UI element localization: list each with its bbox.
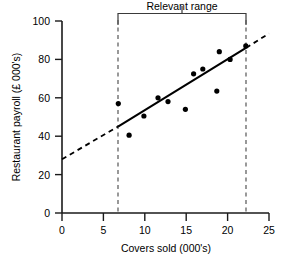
data-point [243,43,248,48]
scatter-chart: Relevant range 0 20 40 6 [0,0,292,273]
x-tick-label-25: 25 [263,224,275,236]
y-tick-label-60: 60 [38,92,50,104]
x-axis-ticks [62,213,269,221]
relevant-range-label: Relevant range [146,0,217,12]
x-axis-title: Covers sold (000's) [121,242,211,254]
data-point [217,49,222,54]
data-point [141,113,146,118]
y-axis-title: Restaurant payroll (£ 000's) [10,53,22,182]
y-axis-ticks [55,21,62,213]
x-tick-label-15: 15 [180,224,192,236]
y-tick-label-20: 20 [38,169,50,181]
y-tick-label-40: 40 [38,130,50,142]
y-tick-label-100: 100 [32,15,50,27]
relevant-range-bounds [118,20,246,213]
data-point [155,95,160,100]
data-point-group [116,43,249,137]
x-tick-label-20: 20 [222,224,234,236]
chart-canvas: Relevant range 0 20 40 6 [0,0,292,273]
x-axis-tick-labels: 0 5 10 15 20 25 [59,224,275,236]
x-tick-label-10: 10 [139,224,151,236]
data-point [191,71,196,76]
data-point [200,66,205,71]
data-point [214,89,219,94]
relevant-range-annotation: Relevant range [118,0,246,25]
x-tick-label-0: 0 [59,224,65,236]
fit-line-extension-upper [246,34,269,48]
x-tick-label-5: 5 [100,224,106,236]
axes: 0 20 40 60 80 100 0 5 10 15 2 [32,15,275,236]
y-tick-label-0: 0 [44,207,50,219]
fit-line-extension-lower [62,127,118,160]
data-point [228,57,233,62]
data-point [116,101,121,106]
data-point [165,99,170,104]
data-point [127,133,132,138]
fit-line-solid [118,48,246,127]
data-point [183,107,188,112]
y-axis-tick-labels: 0 20 40 60 80 100 [32,15,50,219]
y-tick-label-80: 80 [38,53,50,65]
